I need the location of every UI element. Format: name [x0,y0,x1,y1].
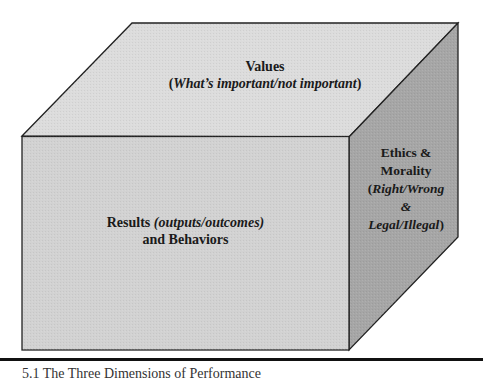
close-paren: ) [439,217,444,232]
side-face-label: Ethics & Morality (Right/Wrong & Legal/I… [352,144,460,234]
results-line: Results (outputs/outcomes) [22,214,349,231]
ethics-line: Ethics & [352,144,460,162]
legal-illegal-text: Legal/Illegal [368,217,439,232]
figure-caption: 5.1 The Three Dimensions of Performance [22,366,261,382]
right-wrong-text: Right/Wrong [372,181,444,196]
top-face-label: Values (What’s important/not important) [150,58,380,92]
morality-line: Morality [352,162,460,180]
front-face-label: Results (outputs/outcomes) and Behaviors [22,214,349,248]
behaviors-line: and Behaviors [22,231,349,248]
values-subtitle-text: What’s important/not important [173,76,356,91]
horizontal-rule [0,358,483,361]
values-subtitle: (What’s important/not important) [150,75,380,92]
results-title: Results [107,215,151,230]
close-paren: ) [357,76,362,91]
results-italic: (outputs/outcomes) [154,215,264,230]
right-wrong-line: (Right/Wrong [352,180,460,198]
values-title: Values [150,58,380,75]
ampersand-line: & [352,198,460,216]
legal-illegal-line: Legal/Illegal) [352,216,460,234]
